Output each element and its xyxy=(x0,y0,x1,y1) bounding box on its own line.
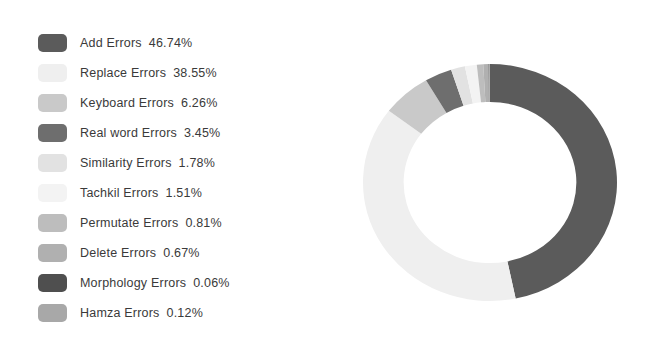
legend-swatch-hamza-errors xyxy=(38,304,67,322)
donut-chart-svg xyxy=(361,62,619,303)
legend-item-value: 46.74% xyxy=(149,36,193,50)
legend-item-value: 1.51% xyxy=(166,186,202,200)
legend-item-text: Replace Errors38.55% xyxy=(80,66,217,80)
legend-item-label: Permutate Errors xyxy=(80,216,178,230)
legend-item-label: Keyboard Errors xyxy=(80,96,174,110)
donut-segment[interactable] xyxy=(490,64,617,299)
legend-item-label: Replace Errors xyxy=(80,66,166,80)
legend-item-text: Delete Errors0.67% xyxy=(80,246,200,260)
legend-item[interactable]: Tachkil Errors1.51% xyxy=(38,178,338,208)
legend-item-text: Similarity Errors1.78% xyxy=(80,156,215,170)
legend-item[interactable]: Replace Errors38.55% xyxy=(38,58,338,88)
legend-swatch-morphology-errors xyxy=(38,274,67,292)
legend-item[interactable]: Delete Errors0.67% xyxy=(38,238,338,268)
donut-segment[interactable] xyxy=(363,111,516,301)
legend-item-label: Morphology Errors xyxy=(80,276,186,290)
legend-item-value: 0.06% xyxy=(193,276,229,290)
chart-legend: Add Errors46.74%Replace Errors38.55%Keyb… xyxy=(38,28,338,328)
legend-swatch-real-word-errors xyxy=(38,124,67,142)
legend-item-label: Delete Errors xyxy=(80,246,156,260)
legend-swatch-delete-errors xyxy=(38,244,67,262)
legend-item-value: 0.67% xyxy=(163,246,199,260)
legend-item[interactable]: Keyboard Errors6.26% xyxy=(38,88,338,118)
legend-item-label: Tachkil Errors xyxy=(80,186,159,200)
legend-item-label: Add Errors xyxy=(80,36,142,50)
legend-item-text: Hamza Errors0.12% xyxy=(80,306,203,320)
legend-item-text: Permutate Errors0.81% xyxy=(80,216,222,230)
legend-item-text: Tachkil Errors1.51% xyxy=(80,186,202,200)
legend-item-value: 1.78% xyxy=(179,156,215,170)
legend-item-text: Real word Errors3.45% xyxy=(80,126,220,140)
legend-item-value: 38.55% xyxy=(173,66,217,80)
legend-item-text: Morphology Errors0.06% xyxy=(80,276,230,290)
legend-item[interactable]: Real word Errors3.45% xyxy=(38,118,338,148)
legend-item-text: Keyboard Errors6.26% xyxy=(80,96,217,110)
legend-item[interactable]: Similarity Errors1.78% xyxy=(38,148,338,178)
legend-swatch-add-errors xyxy=(38,34,67,52)
legend-item-text: Add Errors46.74% xyxy=(80,36,192,50)
legend-item-label: Similarity Errors xyxy=(80,156,172,170)
legend-swatch-replace-errors xyxy=(38,64,67,82)
legend-item[interactable]: Add Errors46.74% xyxy=(38,28,338,58)
legend-item-value: 0.81% xyxy=(185,216,221,230)
donut-chart-figure: Add Errors46.74%Replace Errors38.55%Keyb… xyxy=(0,0,661,355)
legend-item-label: Real word Errors xyxy=(80,126,177,140)
donut-chart-plot-area xyxy=(361,62,619,303)
legend-swatch-keyboard-errors xyxy=(38,94,67,112)
legend-swatch-permutate-errors xyxy=(38,214,67,232)
legend-item-value: 3.45% xyxy=(184,126,220,140)
legend-item[interactable]: Morphology Errors0.06% xyxy=(38,268,338,298)
legend-swatch-tachkil-errors xyxy=(38,184,67,202)
legend-item-value: 0.12% xyxy=(167,306,203,320)
legend-item[interactable]: Permutate Errors0.81% xyxy=(38,208,338,238)
legend-item-label: Hamza Errors xyxy=(80,306,160,320)
legend-item[interactable]: Hamza Errors0.12% xyxy=(38,298,338,328)
legend-item-value: 6.26% xyxy=(181,96,217,110)
legend-swatch-similarity-errors xyxy=(38,154,67,172)
